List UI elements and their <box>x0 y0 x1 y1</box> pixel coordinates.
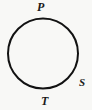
circle-outline <box>8 19 78 89</box>
point-label-p: P <box>37 1 44 13</box>
point-label-s: S <box>79 77 85 88</box>
point-label-t: T <box>41 95 48 107</box>
geometry-figure: P S T <box>0 0 92 110</box>
